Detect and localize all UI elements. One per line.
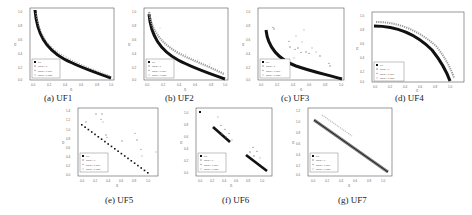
legend-nsga2-ddi: NSGA-II-DDI: [316, 168, 331, 171]
svg-text:0.0: 0.0: [296, 173, 301, 177]
svg-text:0.0: 0.0: [184, 171, 189, 175]
caption-uf6: (f) UF6: [222, 195, 249, 205]
legend-nsga2-ddi: NSGA-II-DDI: [266, 74, 281, 77]
caption-uf7: (g) UF7: [338, 195, 367, 205]
svg-text:1.0: 1.0: [360, 14, 365, 18]
legend-nsga2: NSGA-II: [380, 68, 390, 71]
svg-text:0.6: 0.6: [246, 38, 251, 42]
svg-text:0.4: 0.4: [339, 179, 344, 183]
svg-text:0.8: 0.8: [184, 123, 189, 127]
legend-pf: PF: [266, 61, 270, 64]
svg-text:0.6: 0.6: [418, 85, 423, 89]
caption-uf4: (d) UF4: [395, 93, 424, 103]
svg-text:f1: f1: [348, 184, 351, 188]
svg-text:1.0: 1.0: [184, 111, 189, 115]
svg-text:0.0: 0.0: [66, 173, 71, 177]
svg-text:0.8: 0.8: [95, 83, 100, 87]
legend-nsga2-dti: NSGA-II-DTI: [380, 73, 394, 76]
svg-text:0.6: 0.6: [234, 179, 239, 183]
legend-pf: PF: [86, 155, 90, 158]
svg-text:0.2: 0.2: [66, 164, 71, 168]
svg-text:0.2: 0.2: [184, 159, 189, 163]
svg-text:0.6: 0.6: [353, 179, 358, 183]
svg-text:f1: f1: [230, 184, 233, 188]
legend-nsga2-dti: NSGA-II-DTI: [204, 164, 218, 167]
legend-pf: PF: [204, 155, 208, 158]
svg-text:0.6: 0.6: [307, 83, 312, 87]
plot-uf4: 1.00.80.60.40.20.0 0.00.20.40.60.81.0 f1…: [356, 4, 472, 92]
legend: PF NSGA-II NSGA-II-DTI NSGA-II-DDI: [198, 153, 226, 172]
svg-text:0.6: 0.6: [119, 179, 124, 183]
svg-text:0.4: 0.4: [184, 147, 189, 151]
svg-text:0.0: 0.0: [246, 78, 251, 82]
svg-text:0.4: 0.4: [222, 179, 227, 183]
svg-text:f2: f2: [356, 47, 359, 51]
svg-text:0.2: 0.2: [246, 66, 251, 70]
caption-uf1: (a) UF1: [44, 93, 72, 103]
legend: PF NSGA-II NSGA-II-DTI NSGA-II-DDI: [146, 59, 174, 78]
svg-text:0.2: 0.2: [275, 83, 280, 87]
svg-text:f1: f1: [300, 88, 303, 92]
svg-text:f2: f2: [292, 141, 295, 145]
svg-text:0.4: 0.4: [66, 155, 71, 159]
svg-text:1.0: 1.0: [223, 83, 228, 87]
legend-nsga2-ddi: NSGA-II-DDI: [380, 77, 395, 80]
svg-text:0.4: 0.4: [132, 52, 137, 56]
svg-text:f2: f2: [14, 43, 17, 47]
svg-text:0.6: 0.6: [360, 42, 365, 46]
svg-text:0.4: 0.4: [296, 153, 301, 157]
svg-text:0.8: 0.8: [246, 24, 251, 28]
legend: PF NSGA-II NSGA-II-DTI NSGA-II-DDI: [80, 153, 108, 172]
svg-text:f2: f2: [180, 141, 183, 145]
svg-text:0.8: 0.8: [66, 137, 71, 141]
svg-text:0.8: 0.8: [323, 83, 328, 87]
svg-text:1.0: 1.0: [18, 10, 23, 14]
svg-text:f2: f2: [242, 43, 245, 47]
svg-text:0.6: 0.6: [184, 135, 189, 139]
svg-text:0.4: 0.4: [106, 179, 111, 183]
svg-text:0.2: 0.2: [325, 179, 330, 183]
svg-text:f1: f1: [116, 184, 119, 188]
svg-text:0.4: 0.4: [291, 83, 296, 87]
svg-text:0.2: 0.2: [47, 83, 52, 87]
svg-text:0.4: 0.4: [246, 52, 251, 56]
svg-text:0.2: 0.2: [161, 83, 166, 87]
svg-text:0.0: 0.0: [373, 85, 378, 89]
caption-uf5: (e) UF5: [105, 195, 133, 205]
svg-text:0.8: 0.8: [360, 28, 365, 32]
svg-text:1.4: 1.4: [66, 109, 71, 113]
svg-text:0.4: 0.4: [177, 83, 182, 87]
svg-text:0.0: 0.0: [311, 179, 316, 183]
legend-pf: PF: [38, 61, 42, 64]
svg-text:0.2: 0.2: [18, 66, 23, 70]
svg-text:0.6: 0.6: [18, 38, 23, 42]
svg-text:f1: f1: [70, 88, 73, 92]
legend-nsga2-dti: NSGA-II-DTI: [86, 164, 100, 167]
svg-text:1.0: 1.0: [66, 128, 71, 132]
svg-text:f1: f1: [184, 88, 187, 92]
svg-text:0.8: 0.8: [132, 24, 137, 28]
svg-text:0.2: 0.2: [93, 179, 98, 183]
svg-text:1.0: 1.0: [146, 179, 151, 183]
svg-text:f2: f2: [128, 43, 131, 47]
plot-uf7: 1.21.00.80.60.40.20.0 0.00.20.40.60.81.0…: [292, 106, 396, 192]
legend: PF NSGA-II NSGA-II-DTI NSGA-II-DDI: [32, 59, 60, 78]
svg-text:1.0: 1.0: [109, 83, 114, 87]
legend-nsga2: NSGA-II: [204, 159, 214, 162]
svg-text:1.0: 1.0: [246, 10, 251, 14]
legend-pf: PF: [152, 61, 156, 64]
legend: PF NSGA-II NSGA-II-DTI NSGA-II-DDI: [374, 62, 404, 81]
svg-text:0.4: 0.4: [360, 56, 365, 60]
caption-uf2: (b) UF2: [165, 93, 194, 103]
caption-uf3: (c) UF3: [281, 93, 309, 103]
svg-text:0.4: 0.4: [403, 85, 408, 89]
svg-text:0.8: 0.8: [209, 83, 214, 87]
svg-text:1.0: 1.0: [296, 120, 301, 124]
legend-nsga2-dti: NSGA-II-DTI: [152, 70, 166, 73]
legend-nsga2: NSGA-II: [38, 65, 48, 68]
svg-text:0.2: 0.2: [360, 70, 365, 74]
svg-text:0.2: 0.2: [210, 179, 215, 183]
legend-nsga2: NSGA-II: [266, 65, 276, 68]
legend-nsga2-ddi: NSGA-II-DDI: [152, 74, 167, 77]
legend-pf: PF: [316, 155, 320, 158]
